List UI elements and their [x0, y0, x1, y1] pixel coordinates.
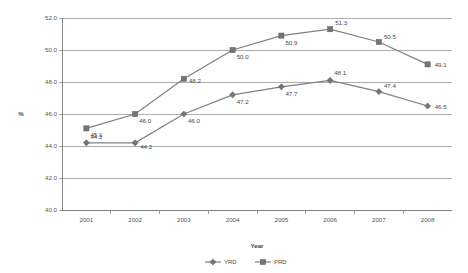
y-axis-tick-label: 44.0 [45, 142, 58, 149]
series-prd-point-2-square-marker [181, 76, 186, 81]
data-label-prd-2001: 45.1 [90, 131, 103, 138]
line-chart: 52.050.048.046.044.042.040.0%20012002200… [0, 0, 468, 273]
y-axis-tick-label: 52.0 [45, 14, 58, 21]
series-yrd-point-6-diamond-marker [376, 89, 382, 95]
data-label-prd-2007: 50.5 [384, 33, 397, 40]
series-prd-point-0-square-marker [84, 126, 89, 131]
data-label-prd-2003: 48.2 [189, 77, 202, 84]
series-yrd-point-4-diamond-marker [278, 84, 284, 90]
data-label-yrd-2008: 46.5 [435, 103, 448, 110]
x-axis-tick-label: 2006 [323, 216, 337, 223]
series-prd-point-6-square-marker [376, 39, 381, 44]
y-axis-title: % [18, 110, 24, 117]
x-axis-tick-label: 2008 [421, 216, 435, 223]
x-axis-tick-label: 2007 [372, 216, 386, 223]
series-yrd-point-7-diamond-marker [425, 103, 431, 109]
series-prd-point-4-square-marker [279, 33, 284, 38]
series-yrd-point-2-diamond-marker [181, 111, 187, 117]
data-label-prd-2006: 51.3 [335, 19, 348, 26]
x-axis-tick-label: 2003 [177, 216, 191, 223]
series-yrd-point-5-diamond-marker [327, 77, 333, 83]
data-label-prd-2005: 50.9 [285, 39, 298, 46]
y-axis-tick-label: 46.0 [45, 110, 58, 117]
data-label-yrd-2003: 46.0 [188, 117, 201, 124]
data-label-yrd-2006: 48.1 [334, 69, 347, 76]
data-label-yrd-2002: 44.2 [140, 143, 153, 150]
legend-label-prd: PRD [274, 259, 287, 265]
x-axis-tick-label: 2004 [226, 216, 240, 223]
data-label-yrd-2004: 47.2 [237, 98, 250, 105]
y-axis-tick-label: 40.0 [45, 206, 58, 213]
x-axis-tick-label: 2005 [274, 216, 288, 223]
data-label-prd-2008: 49.1 [435, 61, 448, 68]
y-axis-tick-label: 50.0 [45, 46, 58, 53]
data-label-prd-2004: 50.0 [237, 53, 250, 60]
y-axis-tick-label: 42.0 [45, 174, 58, 181]
legend-label-yrd: YRD [224, 259, 237, 265]
series-prd-point-1-square-marker [133, 111, 138, 116]
x-axis-tick-label: 2001 [79, 216, 93, 223]
data-label-yrd-2005: 47.7 [285, 90, 298, 97]
x-axis-title: Year [250, 242, 264, 249]
series-prd-point-3-square-marker [230, 47, 235, 52]
x-axis-tick-label: 2002 [128, 216, 142, 223]
series-prd-point-7-square-marker [425, 62, 430, 67]
series-yrd-point-0-diamond-marker [83, 140, 89, 146]
chart-canvas: 52.050.048.046.044.042.040.0%20012002200… [0, 0, 468, 273]
legend-yrd-diamond-marker [210, 259, 216, 265]
data-label-yrd-2007: 47.4 [384, 82, 397, 89]
series-prd-point-5-square-marker [328, 27, 333, 32]
data-label-prd-2002: 46.0 [139, 117, 152, 124]
series-yrd-point-1-diamond-marker [132, 140, 138, 146]
legend-prd-square-marker [260, 259, 265, 264]
series-yrd-point-3-diamond-marker [230, 92, 236, 98]
y-axis-tick-label: 48.0 [45, 78, 58, 85]
